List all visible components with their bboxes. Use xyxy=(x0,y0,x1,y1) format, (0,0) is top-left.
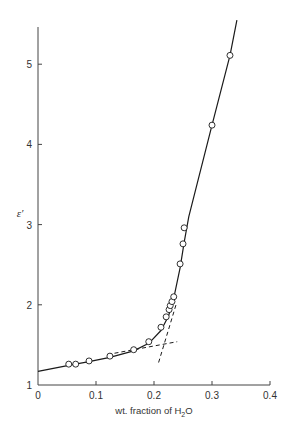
x-tick-label: 0.1 xyxy=(89,390,103,401)
data-point-marker xyxy=(86,358,92,364)
x-axis-title-main: wt. fraction of H xyxy=(114,405,181,416)
data-point-marker xyxy=(163,314,169,320)
data-point-marker xyxy=(66,361,72,367)
data-point-marker xyxy=(131,347,137,353)
x-tick-label: 0.3 xyxy=(205,390,219,401)
data-point-marker xyxy=(73,361,79,367)
x-tick-label: 0 xyxy=(35,390,41,401)
y-tick-label: 1 xyxy=(26,380,32,391)
data-point-marker xyxy=(177,261,183,267)
x-tick-label: 0.4 xyxy=(263,390,277,401)
chart: 12345 00.10.20.30.4 ε′ wt. fraction of H… xyxy=(0,0,296,433)
dashed-extrapolation-line xyxy=(159,305,176,363)
series-lines xyxy=(38,20,237,371)
x-ticks: 00.10.20.30.4 xyxy=(35,381,277,401)
data-points xyxy=(66,52,233,367)
data-point-marker xyxy=(181,225,187,231)
axes: 12345 00.10.20.30.4 xyxy=(26,27,277,401)
data-point-marker xyxy=(209,122,215,128)
data-point-marker xyxy=(227,52,233,58)
x-axis-title-end: O xyxy=(185,405,192,416)
y-tick-label: 2 xyxy=(26,300,32,311)
y-tick-label: 5 xyxy=(26,59,32,70)
x-axis-title: wt. fraction of H2O xyxy=(114,405,192,418)
data-point-marker xyxy=(146,339,152,345)
y-axis-title: ε′ xyxy=(17,207,24,219)
y-ticks: 12345 xyxy=(26,59,42,391)
data-point-marker xyxy=(107,353,113,359)
fit-curve xyxy=(38,20,237,371)
data-point-marker xyxy=(180,241,186,247)
data-point-marker xyxy=(171,294,177,300)
y-tick-label: 4 xyxy=(26,139,32,150)
dashed-extrapolation-line xyxy=(108,342,178,355)
data-point-marker xyxy=(158,324,164,330)
x-tick-label: 0.2 xyxy=(147,390,161,401)
y-tick-label: 3 xyxy=(26,220,32,231)
